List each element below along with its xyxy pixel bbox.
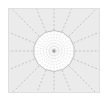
- outer-spoke: [62, 70, 99, 92]
- center-hub-icon: [53, 50, 56, 53]
- outer-spoke: [73, 59, 99, 92]
- outer-spoke: [69, 66, 99, 92]
- outer-spoke: [9, 70, 46, 92]
- outer-spoke: [9, 59, 35, 92]
- outer-spoke: [9, 9, 39, 36]
- figure-title: Radial Spoke Diagram: [0, 0, 1, 1]
- radial-diagram-svg: [9, 9, 99, 92]
- figure-thumbnail: Radial Spoke Diagram: [0, 0, 108, 101]
- outer-spoke: [62, 9, 99, 32]
- outer-spoke: [73, 9, 99, 43]
- outer-spoke: [9, 66, 39, 92]
- plot-panel: [8, 8, 100, 93]
- outer-spoke: [9, 9, 46, 32]
- outer-spoke: [9, 9, 35, 43]
- outer-spoke: [69, 9, 99, 36]
